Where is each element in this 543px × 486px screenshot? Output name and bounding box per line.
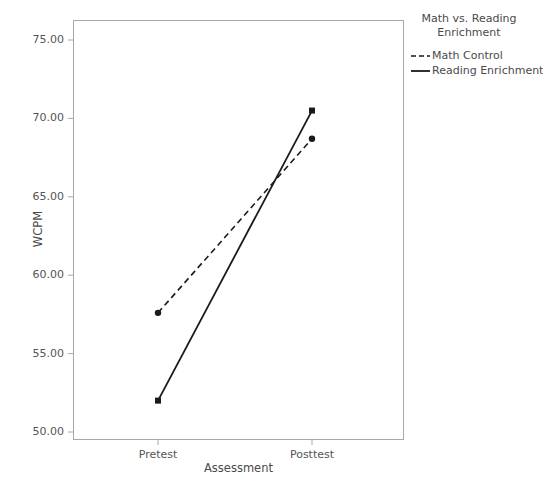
plot-area (73, 20, 404, 440)
dashed-line-icon (410, 51, 432, 61)
y-tick-label: 70.00 (8, 112, 64, 124)
legend-title: Math vs. Reading Enrichment (410, 12, 528, 40)
legend-label-reading-enrichment: Reading Enrichment (432, 65, 543, 77)
legend-item-reading-enrichment: Reading Enrichment (410, 63, 538, 78)
legend: Math vs. Reading Enrichment Math Control (410, 12, 538, 78)
y-tick-label: 75.00 (8, 34, 64, 46)
legend-entries: Math Control Reading Enrichment (410, 48, 538, 78)
x-axis-title: Assessment (73, 461, 404, 475)
legend-title-line-1: Math vs. Reading (410, 12, 528, 26)
legend-label-math-control: Math Control (432, 50, 503, 62)
y-tick-label: 50.00 (8, 426, 64, 438)
y-axis-title: WCPM (31, 169, 45, 289)
x-tick-label: Pretest (108, 449, 208, 461)
y-tick-label: 55.00 (8, 348, 64, 360)
x-tick-label: Posttest (262, 449, 362, 461)
legend-title-line-2: Enrichment (410, 26, 528, 40)
legend-item-math-control: Math Control (410, 48, 538, 63)
solid-line-icon (410, 66, 432, 76)
